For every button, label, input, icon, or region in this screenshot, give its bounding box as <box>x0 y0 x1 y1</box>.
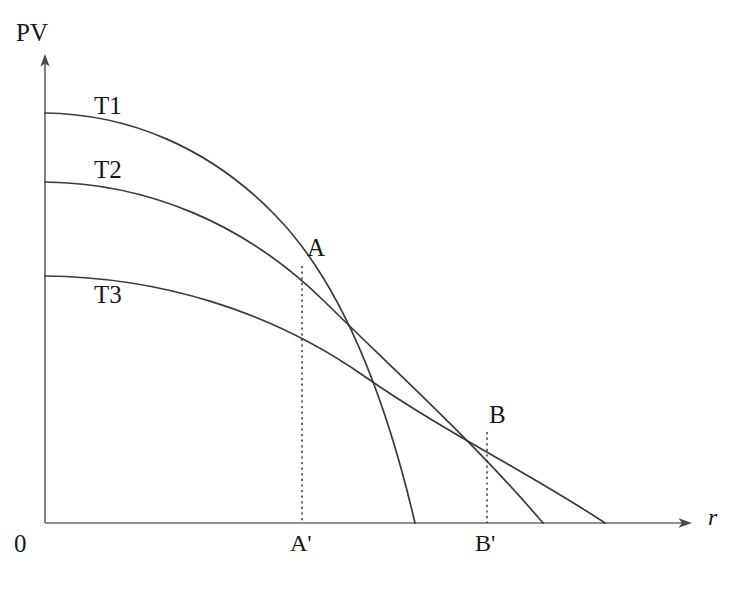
x-axis-tick-label-b-prime: B' <box>475 531 495 555</box>
curve-label-t3: T3 <box>94 282 122 307</box>
x-axis-label: r <box>708 505 717 529</box>
x-axis-tick-label-a-prime: A' <box>290 531 312 555</box>
point-label-b: B <box>489 402 506 427</box>
curve-label-t1: T1 <box>94 93 122 118</box>
y-axis-label: PV <box>16 20 48 45</box>
point-label-a: A <box>307 235 325 260</box>
origin-label: 0 <box>14 531 27 556</box>
curve-label-t2: T2 <box>94 157 122 182</box>
